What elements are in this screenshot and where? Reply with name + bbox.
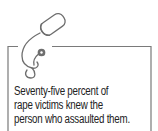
callout-line-2: rape victims knew the xyxy=(14,98,154,112)
callout-text: Seventy-five percent of rape victims kne… xyxy=(14,84,154,126)
callout-line-1: Seventy-five percent of xyxy=(14,84,154,98)
stethoscope-icon xyxy=(22,11,67,78)
fact-callout: Seventy-five percent of rape victims kne… xyxy=(0,0,158,131)
callout-line-3: person who assaulted them. xyxy=(14,112,154,126)
